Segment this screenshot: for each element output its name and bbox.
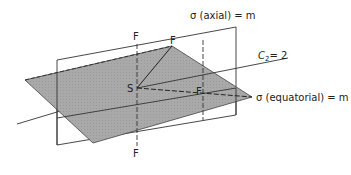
label-sigma-axial: σ (axial) = m (190, 10, 256, 21)
label-sigma-equatorial: σ (equatorial) = m (256, 92, 349, 103)
label-f-bottom: F (133, 148, 139, 159)
label-s-atom: S (127, 83, 133, 94)
label-f-upper: F (170, 35, 176, 46)
label-f-top: F (133, 31, 139, 42)
label-f-right: F (196, 86, 202, 97)
symmetry-diagram: σ (axial) = m C2= 2 σ (equatorial) = m S… (0, 0, 351, 175)
